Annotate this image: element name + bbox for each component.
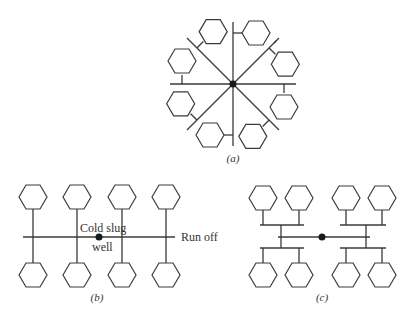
panel-a-sprue-dot (230, 81, 237, 88)
panel-a-radial-layout (155, 6, 312, 163)
panel-b-column-3 (108, 185, 136, 287)
cold-slug-label: Cold slug (80, 221, 126, 235)
panel-b-column-2 (63, 185, 91, 287)
panel-b-caption: (b) (91, 291, 104, 304)
runner-layout-figure: (a) Cold slug well Run off (b) (0, 0, 415, 315)
panel-c-sprue-dot (319, 234, 326, 241)
panel-a-cavity-7 (168, 49, 196, 84)
panel-b-column-4 (152, 185, 180, 287)
panel-a-cavity-3 (270, 84, 298, 119)
run-off-label: Run off (181, 230, 218, 244)
panel-a-cavity-5 (196, 123, 233, 147)
panel-a-cavity-1 (233, 21, 270, 45)
panel-a-cavity-8 (184, 6, 239, 61)
panel-b-linear-layout: Cold slug well Run off (19, 185, 218, 287)
panel-c-caption: (c) (316, 291, 329, 304)
panel-a-caption: (a) (227, 152, 240, 165)
panel-c-h-branch-layout (249, 186, 396, 287)
panel-b-column-1 (19, 185, 47, 287)
well-label: well (92, 240, 113, 254)
